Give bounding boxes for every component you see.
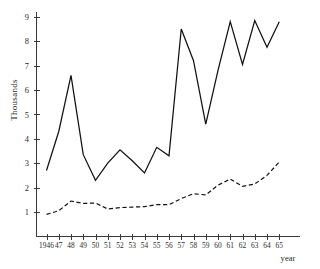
y-tick-label: 4: [25, 135, 30, 144]
x-tick-label: 51: [104, 241, 112, 250]
x-tick-label: 56: [165, 241, 173, 250]
x-tick-label: 47: [55, 241, 63, 250]
x-tick-label: 61: [227, 241, 235, 250]
x-tick-label: 59: [202, 241, 210, 250]
x-tick-label: 65: [276, 241, 284, 250]
series-group: [47, 20, 280, 214]
data-line-solid: [47, 20, 280, 180]
x-tick-label: 60: [214, 241, 222, 250]
x-axis-tick-labels: 1946474849505152535455565758596061626364…: [39, 241, 283, 250]
x-tick-label: 50: [92, 241, 100, 250]
x-tick-label: 58: [190, 241, 198, 250]
x-axis-title: year: [281, 253, 296, 263]
y-tick-label: 7: [25, 62, 29, 71]
y-axis-tick-labels: 123456789: [25, 13, 30, 217]
y-tick-label: 6: [25, 86, 29, 95]
x-tick-label: 55: [153, 241, 161, 250]
y-axis-group: 123456789: [25, 12, 40, 237]
x-axis-group: 1946474849505152535455565758596061626364…: [37, 234, 301, 251]
y-tick-label: 5: [25, 111, 29, 120]
x-tick-label: 52: [116, 241, 124, 250]
axis-titles: Thousands year: [9, 79, 296, 263]
y-tick-label: 3: [25, 159, 29, 168]
x-tick-label: 64: [263, 241, 271, 250]
y-tick-label: 2: [25, 184, 29, 193]
line-chart: 123456789 194647484950515253545556575859…: [0, 0, 320, 269]
y-axis-title: Thousands: [9, 79, 19, 121]
x-tick-label: 57: [178, 241, 186, 250]
x-tick-label: 53: [129, 241, 137, 250]
x-tick-label: 63: [251, 241, 259, 250]
x-tick-label: 1946: [39, 241, 54, 250]
y-tick-label: 9: [25, 13, 29, 22]
x-tick-label: 48: [67, 241, 75, 250]
x-tick-label: 49: [80, 241, 88, 250]
x-tick-label: 54: [141, 241, 149, 250]
chart-container: 123456789 194647484950515253545556575859…: [0, 0, 320, 269]
y-tick-label: 1: [25, 208, 29, 217]
x-tick-label: 62: [239, 241, 247, 250]
y-tick-label: 8: [25, 37, 29, 46]
data-line-dashed: [47, 162, 280, 214]
